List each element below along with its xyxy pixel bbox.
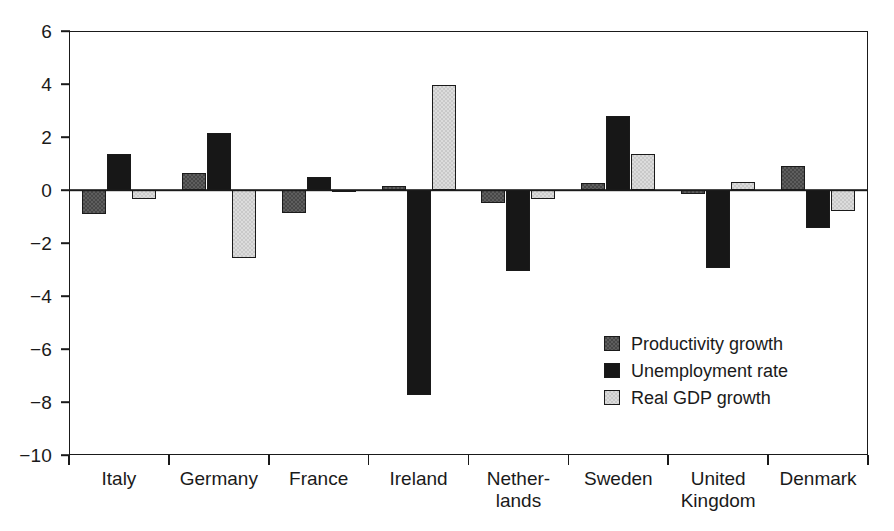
bar [706,190,730,268]
x-axis-category-label: Nether-lands [487,468,550,512]
x-axis-tick-mark [667,455,669,465]
bar [182,173,206,190]
x-axis-category-label-line: Italy [102,468,137,490]
x-axis-tick-mark [268,455,270,465]
bar [207,133,231,190]
bar [506,190,530,271]
x-axis-category-label: France [289,468,348,490]
bar [806,190,830,228]
bar [432,85,456,190]
bar [232,190,256,258]
bar [631,154,655,190]
legend-item: Real GDP growth [604,384,788,411]
x-axis-category-label-line: Denmark [780,468,857,490]
x-axis-tick-mark [368,455,370,465]
bar [82,190,106,214]
bar [831,190,855,211]
x-axis-category-label-line: Germany [180,468,258,490]
x-axis-category-label: Denmark [780,468,857,490]
x-axis-category-label: Germany [180,468,258,490]
legend-item: Unemployment rate [604,357,788,384]
x-axis-tick-mark [867,455,869,465]
bar-chart: 6420−2−4−6−8−10 ItalyGermanyFranceIrelan… [0,0,894,531]
legend-item: Productivity growth [604,330,788,357]
x-axis-tick-mark [68,455,70,465]
black-swatch [604,363,620,378]
x-axis-tick-mark [468,455,470,465]
x-axis-tick-mark [168,455,170,465]
chart-legend: Productivity growthUnemployment rateReal… [604,330,788,411]
legend-item-label: Real GDP growth [631,389,771,407]
x-axis-category-label-line: France [289,468,348,490]
bar [132,190,156,199]
bar [481,190,505,203]
bar [107,154,131,190]
legend-item-label: Unemployment rate [631,362,788,380]
zero-baseline [69,189,868,191]
light-gray-textured-swatch [604,390,620,405]
x-axis-category-label: Sweden [584,468,653,490]
bar [781,166,805,190]
bar [282,190,306,213]
dark-gray-textured-swatch [604,336,620,351]
x-axis-tick-mark [568,455,570,465]
bar [307,177,331,190]
x-axis-category-label-line: United [681,468,756,490]
bar [407,190,431,395]
bar [531,190,555,199]
x-axis-category-label-line: Sweden [584,468,653,490]
x-axis-category-label-line: Nether- [487,468,550,490]
x-axis-tick-mark [767,455,769,465]
x-axis-category-label-line: Kingdom [681,490,756,512]
x-axis-category-label: Italy [102,468,137,490]
bar [606,116,630,190]
x-axis-category-label: UnitedKingdom [681,468,756,512]
x-axis-category-label-line: lands [487,490,550,512]
x-axis-category-label: Ireland [390,468,448,490]
x-axis-category-label-line: Ireland [390,468,448,490]
legend-item-label: Productivity growth [631,335,783,353]
